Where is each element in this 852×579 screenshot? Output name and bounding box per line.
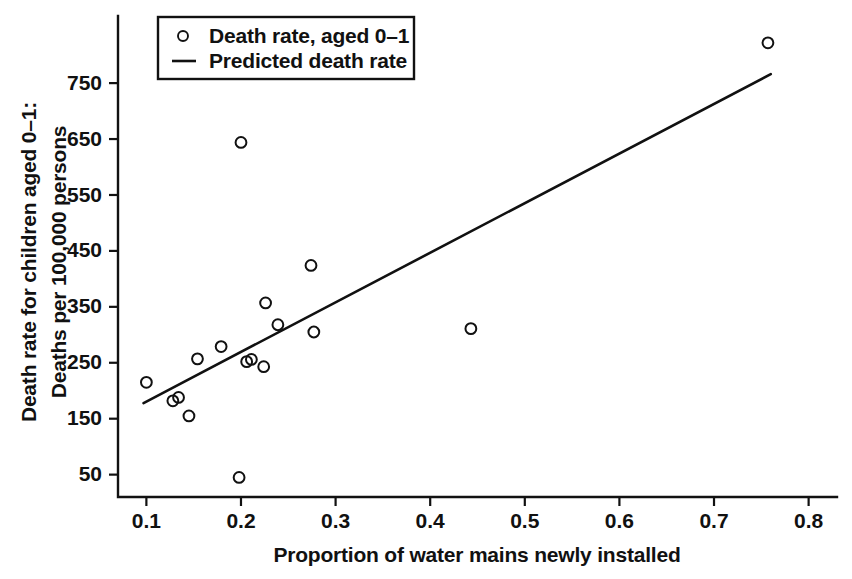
- x-tick-label: 0.2: [226, 509, 255, 532]
- legend-label-predicted: Predicted death rate: [209, 49, 407, 72]
- scatter-point: [192, 353, 203, 364]
- scatter-point: [308, 327, 319, 338]
- scatter-point: [465, 323, 476, 334]
- x-axis-ticks: 0.10.20.30.40.50.60.70.8: [132, 497, 824, 532]
- y-tick-label: 350: [67, 294, 102, 317]
- scatter-point: [258, 361, 269, 372]
- chart-figure: 50150250350450550650750 0.10.20.30.40.50…: [0, 0, 852, 579]
- x-tick-label: 0.6: [605, 509, 634, 532]
- y-axis-ticks: 50150250350450550650750: [67, 71, 118, 486]
- scatter-point: [216, 341, 227, 352]
- scatter-point: [763, 37, 774, 48]
- legend: Death rate, aged 0–1 Predicted death rat…: [158, 17, 414, 79]
- x-tick-label: 0.1: [132, 509, 162, 532]
- y-axis-title-line1: Death rate for children aged 0–1:: [17, 102, 40, 422]
- x-tick-label: 0.4: [416, 509, 446, 532]
- scatter-point: [184, 411, 195, 422]
- legend-label-death-rate: Death rate, aged 0–1: [209, 24, 410, 47]
- scatter-point: [260, 298, 271, 309]
- y-tick-label: 750: [67, 71, 102, 94]
- x-axis-title: Proportion of water mains newly installe…: [273, 543, 680, 566]
- predicted-death-rate-line: [144, 74, 771, 403]
- predicted-death-rate-line-group: [144, 74, 771, 403]
- x-tick-label: 0.8: [794, 509, 824, 532]
- x-tick-label: 0.5: [510, 509, 540, 532]
- death-rate-scatter-points: [141, 37, 773, 482]
- x-tick-label: 0.7: [699, 509, 728, 532]
- scatter-point: [306, 260, 317, 271]
- y-tick-label: 250: [67, 350, 102, 373]
- y-tick-label: 450: [67, 238, 102, 261]
- y-tick-label: 550: [67, 183, 102, 206]
- y-tick-label: 50: [79, 462, 102, 485]
- scatter-point: [272, 319, 283, 330]
- x-tick-label: 0.3: [321, 509, 350, 532]
- scatter-point: [141, 377, 152, 388]
- axis-lines: [118, 16, 837, 497]
- axes-group: [118, 16, 837, 497]
- scatter-point: [234, 472, 245, 483]
- y-tick-label: 150: [67, 406, 102, 429]
- y-axis-title-line2: Deaths per 100,000 persons: [47, 126, 70, 399]
- scatter-plot-canvas: 50150250350450550650750 0.10.20.30.40.50…: [0, 0, 852, 579]
- y-tick-label: 650: [67, 127, 102, 150]
- scatter-point: [236, 137, 247, 148]
